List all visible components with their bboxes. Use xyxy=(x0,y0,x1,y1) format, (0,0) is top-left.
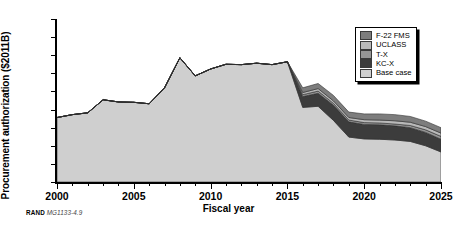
y-tick-mark xyxy=(51,146,57,147)
legend-item-kc-x: KC-X xyxy=(360,59,411,68)
legend-item-base-case: Base case xyxy=(360,69,411,78)
x-tick-mark-minor xyxy=(333,182,334,186)
figure-caption: RAND MG1133-4.9 xyxy=(26,209,82,216)
legend-swatch xyxy=(360,69,372,78)
x-tick-mark-minor xyxy=(303,182,304,186)
x-tick-mark-minor xyxy=(180,182,181,186)
x-tick-mark-minor xyxy=(149,182,150,186)
legend-label: KC-X xyxy=(376,60,394,68)
legend-label: T-X xyxy=(376,51,388,59)
x-tick-label: 2000 xyxy=(45,190,68,202)
x-tick-mark-minor xyxy=(410,182,411,186)
x-tick-label: 2025 xyxy=(429,190,452,202)
x-tick-mark-minor xyxy=(118,182,119,186)
x-tick-mark-minor xyxy=(103,182,104,186)
x-tick-mark-major xyxy=(441,182,442,189)
x-tick-label: 2005 xyxy=(122,190,145,202)
legend-swatch xyxy=(360,50,372,59)
caption-code: MG1133-4.9 xyxy=(47,209,83,216)
legend-swatch xyxy=(360,59,372,68)
legend-label: F-22 FMS xyxy=(376,32,410,40)
x-tick-mark-minor xyxy=(380,182,381,186)
x-tick-label: 2010 xyxy=(199,190,222,202)
x-tick-mark-major xyxy=(211,182,212,189)
x-tick-mark-minor xyxy=(241,182,242,186)
x-tick-mark-minor xyxy=(72,182,73,186)
caption-brand: RAND xyxy=(26,209,45,216)
y-tick-mark xyxy=(51,55,57,56)
x-tick-label: 2020 xyxy=(353,190,376,202)
x-tick-mark-minor xyxy=(88,182,89,186)
x-tick-mark-minor xyxy=(318,182,319,186)
x-tick-mark-minor xyxy=(349,182,350,186)
y-tick-mark xyxy=(51,73,57,74)
y-tick-mark xyxy=(51,164,57,165)
legend-label: Base case xyxy=(376,69,411,77)
y-tick-mark xyxy=(51,128,57,129)
legend-item-uclass: UCLASS xyxy=(360,40,411,49)
legend-swatch xyxy=(360,31,372,40)
x-tick-label: 2015 xyxy=(276,190,299,202)
x-tick-mark-minor xyxy=(195,182,196,186)
legend-item-f-22-fms: F-22 FMS xyxy=(360,31,411,40)
x-tick-mark-minor xyxy=(272,182,273,186)
legend-label: UCLASS xyxy=(376,41,406,49)
y-tick-mark xyxy=(51,19,57,20)
legend-swatch xyxy=(360,41,372,50)
x-tick-mark-major xyxy=(134,182,135,189)
x-tick-mark-minor xyxy=(426,182,427,186)
legend-item-t-x: T-X xyxy=(360,50,411,59)
x-tick-mark-major xyxy=(287,182,288,189)
x-tick-mark-major xyxy=(57,182,58,189)
y-tick-mark xyxy=(51,37,57,38)
y-tick-mark xyxy=(51,91,57,92)
x-tick-mark-minor xyxy=(226,182,227,186)
chart-legend: F-22 FMSUCLASST-XKC-XBase case xyxy=(355,27,417,82)
x-tick-mark-minor xyxy=(165,182,166,186)
x-tick-mark-minor xyxy=(395,182,396,186)
x-tick-mark-minor xyxy=(257,182,258,186)
figure-container: Procurement authorization ($2011B) 05101… xyxy=(0,0,457,231)
y-axis-title: Procurement authorization ($2011B) xyxy=(0,0,13,231)
y-tick-mark xyxy=(51,110,57,111)
x-tick-mark-major xyxy=(364,182,365,189)
